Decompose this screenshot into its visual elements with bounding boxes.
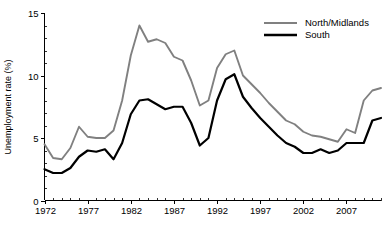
chart-legend: North/MidlandsSouth	[264, 17, 369, 40]
x-axis-tick-labels: 19721977198219871992199720022007	[35, 205, 357, 216]
x-axis-tick-label: 2002	[293, 205, 314, 216]
data-series-group	[45, 26, 382, 174]
series-line-north-midlands	[45, 26, 382, 160]
x-axis-tick-label: 2007	[336, 205, 357, 216]
unemployment-rate-line-chart: 051015 19721977198219871992199720022007 …	[0, 0, 385, 228]
x-axis-tick-label: 1997	[250, 205, 271, 216]
y-axis-tick-label: 5	[33, 133, 38, 144]
x-axis-tick-label: 1977	[78, 205, 99, 216]
x-axis-tick-label: 1972	[35, 205, 56, 216]
legend-label-north-midlands: North/Midlands	[305, 17, 369, 28]
x-axis-tick-label: 1992	[207, 205, 228, 216]
series-line-south	[45, 74, 382, 173]
legend-label-south: South	[305, 29, 330, 40]
chart-container: 051015 19721977198219871992199720022007 …	[0, 0, 385, 228]
y-axis-title: Unemployment rate (%)	[3, 59, 13, 154]
y-axis-tick-labels: 051015	[28, 8, 39, 207]
x-axis-tick-label: 1987	[164, 205, 185, 216]
x-axis-tick-label: 1982	[121, 205, 142, 216]
y-axis-tick-label: 10	[28, 71, 39, 82]
y-axis-tick-label: 15	[28, 8, 39, 19]
